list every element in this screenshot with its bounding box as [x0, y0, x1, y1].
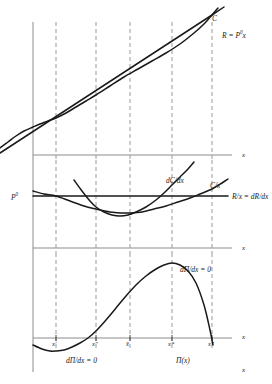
axes-layer [33, 22, 232, 372]
tick-label-x-star: x* [168, 340, 174, 347]
revenue-line-label: R = P0x [222, 29, 246, 40]
tick-label-x-bar: x̄ [126, 340, 129, 347]
profit-min-label: dΠ/dx = 0 [66, 356, 97, 365]
gridlines-layer [56, 22, 212, 348]
profit-max-label: dΠ/dx = 0 [180, 265, 211, 274]
tick-label-x-double-prime: x″ [92, 340, 98, 347]
marginal-cost-label: dC/dx [166, 176, 184, 185]
average-cost-label: C/x [210, 181, 220, 190]
x-axis-label-extra: x [242, 366, 245, 374]
profit-curve-label: Π(x) [176, 356, 190, 365]
x-axis-label-top: x [242, 151, 245, 159]
curves-layer [0, 7, 228, 351]
tick-label-x-triple-prime: x‴ [208, 340, 214, 347]
tick-label-x-prime: x′ [52, 340, 56, 347]
curve-c [0, 8, 218, 148]
x-axis-label-middle: x [242, 244, 245, 252]
economics-three-panel-figure: C R = P0x x dC/dx C/x R/x = dR/dx P0 x d… [0, 0, 272, 384]
curve-r [0, 7, 224, 153]
cost-curve-label: C [212, 14, 217, 23]
price-line-label: R/x = dR/dx [232, 192, 268, 201]
curve-c-x [33, 179, 228, 213]
curve--x- [33, 263, 213, 351]
x-axis-label-bottom: x [242, 333, 245, 341]
curve-dc-dx [74, 162, 194, 216]
price-level-label: P0 [11, 191, 18, 202]
